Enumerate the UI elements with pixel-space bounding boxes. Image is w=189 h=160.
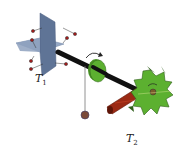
pendulum-bob <box>81 111 89 119</box>
label-t1-sub: 1 <box>42 79 46 87</box>
rotation-arrow-icon <box>86 53 100 58</box>
label-t2: T2 <box>126 132 138 147</box>
t1-cross-body <box>16 13 64 76</box>
label-t2-sub: 2 <box>133 139 137 147</box>
label-t1: T1 <box>35 72 47 87</box>
disc <box>88 59 106 82</box>
mechanism-diagram <box>0 0 189 160</box>
ratchet-gear <box>128 66 173 115</box>
